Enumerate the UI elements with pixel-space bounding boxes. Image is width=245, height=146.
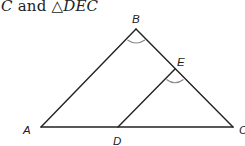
label-a: A — [22, 124, 31, 136]
segment-bc — [136, 29, 233, 127]
label-c: C — [239, 124, 245, 136]
angle-mark-e — [167, 80, 184, 83]
segment-de — [118, 69, 175, 127]
triangle-diagram: B E A D C — [0, 0, 245, 146]
label-d: D — [113, 135, 121, 146]
segment-ab — [41, 29, 136, 127]
angle-mark-b — [128, 40, 146, 43]
label-e: E — [177, 56, 185, 68]
label-b: B — [132, 13, 140, 25]
